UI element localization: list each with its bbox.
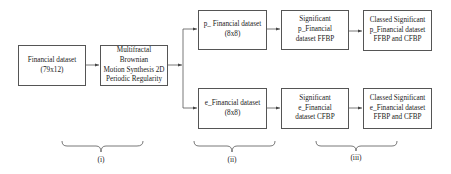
p-dataset-box: p_ Financial dataset (8x8)	[198, 10, 267, 50]
p-dataset-text: p_ Financial dataset (8x8)	[204, 20, 261, 39]
financial-dataset-box: Financial dataset (79x12)	[18, 45, 86, 86]
classed-e-text: Classed Significant e_Financial dataset …	[370, 94, 426, 123]
e-dataset-text: e_Financial dataset (8x8)	[205, 99, 260, 118]
stage-label-iii: (iii)	[341, 153, 371, 162]
classed-p-text: Classed Significant p_Financial dataset …	[370, 16, 426, 45]
classed-p-box: Classed Significant p_Financial dataset …	[363, 10, 432, 51]
stage-label-ii: (ii)	[217, 155, 247, 164]
financial-dataset-text: Financial dataset (79x12)	[28, 56, 77, 75]
brace-i	[62, 141, 143, 152]
classed-e-box: Classed Significant e_Financial dataset …	[363, 88, 432, 129]
mbm-synthesis-text: Multifractal Brownian Motion Synthesis 2…	[103, 46, 165, 85]
stage-label-i: (i)	[86, 155, 116, 164]
brace-iii	[316, 141, 397, 151]
significant-e-box: Significant e_Financial dataset CFBP	[281, 88, 349, 129]
significant-p-box: Significant p_Financial dataset FFBP	[281, 10, 349, 50]
mbm-synthesis-box: Multifractal Brownian Motion Synthesis 2…	[100, 45, 168, 86]
significant-p-text: Significant p_Financial dataset FFBP	[284, 15, 346, 44]
brace-ii	[194, 141, 275, 152]
significant-e-text: Significant e_Financial dataset CFBP	[284, 94, 346, 123]
e-dataset-box: e_Financial dataset (8x8)	[198, 88, 267, 129]
